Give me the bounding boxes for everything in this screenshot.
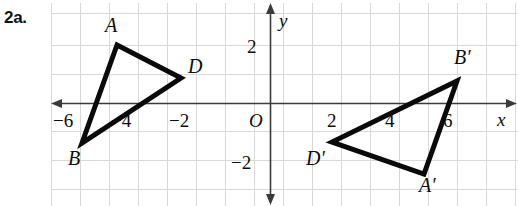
vertex-label-a: A <box>105 15 117 35</box>
x-tick-label-neg6: −6 <box>53 111 73 130</box>
triangle-abd <box>82 45 181 143</box>
x-tick-label-4: 4 <box>385 111 395 130</box>
y-axis-down-arrow <box>266 194 275 205</box>
vertex-label-d: D <box>188 56 202 76</box>
y-tick-label-2: 2 <box>247 37 257 56</box>
y-axis-label: y <box>279 11 287 30</box>
problem-number-label: 2a. <box>4 8 27 28</box>
x-tick-label-neg2: −2 <box>169 111 189 130</box>
x-tick-label-2: 2 <box>327 111 337 130</box>
x-axis-left-arrow <box>51 99 62 108</box>
coordinate-plane: −6 −4 −2 2 4 6 2 −2 O x y A D B B′ A′ D′ <box>51 3 518 206</box>
x-axis-label: x <box>497 110 505 129</box>
vertex-label-b-prime: B′ <box>454 47 471 67</box>
x-tick-label-neg4: −4 <box>111 111 131 130</box>
vertex-label-d-prime: D′ <box>306 148 325 168</box>
figure-container: 2a. <box>0 0 518 206</box>
vertex-label-a-prime: A′ <box>419 175 436 195</box>
origin-label: O <box>249 111 263 130</box>
y-axis-up-arrow <box>266 3 275 14</box>
y-tick-label-neg2: −2 <box>231 153 251 172</box>
vertex-label-b: B <box>68 148 80 168</box>
x-tick-label-6: 6 <box>443 111 453 130</box>
plot-svg <box>51 3 518 206</box>
